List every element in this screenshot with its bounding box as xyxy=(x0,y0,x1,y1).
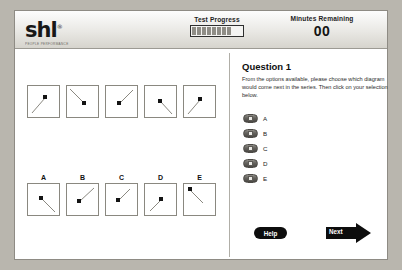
option-row-c[interactable]: C xyxy=(243,141,267,155)
arrow-down-right-icon xyxy=(28,184,59,215)
question-title: Question 1 xyxy=(242,61,291,72)
series-item xyxy=(66,85,99,118)
minutes-remaining-block: Minutes Remaining 00 xyxy=(267,15,377,39)
next-button[interactable]: Next xyxy=(326,223,378,243)
app-header: shl® PEOPLE PERFORMANCE Test Progress Mi… xyxy=(15,11,387,49)
toggle-knob-icon xyxy=(248,176,253,181)
answer-box-c[interactable] xyxy=(105,183,138,216)
arrow-up-right-icon xyxy=(28,86,59,117)
series-item xyxy=(105,85,138,118)
answer-item-d[interactable]: D xyxy=(144,173,177,216)
option-toggle-a[interactable] xyxy=(243,114,258,123)
arrow-up-left-icon xyxy=(184,184,215,215)
arrow-down-left-icon xyxy=(106,86,137,117)
answer-box-e[interactable] xyxy=(183,183,216,216)
test-window: shl® PEOPLE PERFORMANCE Test Progress Mi… xyxy=(14,10,388,260)
answer-item-a[interactable]: A xyxy=(27,173,60,216)
option-toggle-c[interactable] xyxy=(243,144,258,153)
option-label-e: E xyxy=(263,175,267,182)
answer-box-a[interactable] xyxy=(27,183,60,216)
question-instructions: From the options available, please choos… xyxy=(242,75,390,100)
series-item xyxy=(183,85,216,118)
series-box-2 xyxy=(66,85,99,118)
diagram-pane: A B xyxy=(15,49,229,259)
logo-tagline: PEOPLE PERFORMANCE xyxy=(25,42,105,47)
answer-box-b[interactable] xyxy=(66,183,99,216)
content-area: A B xyxy=(15,49,387,259)
progress-segment xyxy=(207,27,211,35)
progress-segment xyxy=(227,27,231,35)
toggle-knob-icon xyxy=(248,146,253,151)
series-box-3 xyxy=(105,85,138,118)
answer-box-d[interactable] xyxy=(144,183,177,216)
answer-label-e: E xyxy=(183,173,216,183)
question-pane: Question 1 From the options available, p… xyxy=(230,49,387,259)
next-button-label: Next xyxy=(329,228,343,235)
option-label-a: A xyxy=(263,115,267,122)
progress-segment xyxy=(202,27,206,35)
answer-item-c[interactable]: C xyxy=(105,173,138,216)
arrow-down-right-icon xyxy=(67,86,98,117)
shl-logo: shl® PEOPLE PERFORMANCE xyxy=(25,16,105,46)
registered-trademark-icon: ® xyxy=(57,23,62,30)
series-item xyxy=(27,85,60,118)
option-row-e[interactable]: E xyxy=(243,171,267,185)
minutes-remaining-label: Minutes Remaining xyxy=(267,15,377,22)
option-label-d: D xyxy=(263,160,267,167)
arrow-up-left-icon xyxy=(145,86,176,117)
logo-wordmark: shl® xyxy=(25,16,105,41)
arrow-down-left-icon xyxy=(106,184,137,215)
progress-segment xyxy=(217,27,221,35)
arrow-down-left-icon xyxy=(67,184,98,215)
arrow-up-right-icon xyxy=(184,86,215,117)
progress-segment xyxy=(197,27,201,35)
test-progress-label: Test Progress xyxy=(163,16,271,23)
option-toggle-d[interactable] xyxy=(243,159,258,168)
option-row-d[interactable]: D xyxy=(243,156,267,170)
logo-word-text: shl xyxy=(25,18,57,42)
test-progress-bar xyxy=(190,25,244,37)
series-row xyxy=(27,85,216,118)
minutes-remaining-value: 00 xyxy=(267,23,377,39)
answer-label-a: A xyxy=(27,173,60,183)
progress-segment xyxy=(192,27,196,35)
test-progress-block: Test Progress xyxy=(163,16,271,37)
progress-segment xyxy=(212,27,216,35)
option-toggle-e[interactable] xyxy=(243,174,258,183)
option-list: A B C D xyxy=(243,111,267,186)
answer-label-d: D xyxy=(144,173,177,183)
answer-label-c: C xyxy=(105,173,138,183)
option-label-c: C xyxy=(263,145,267,152)
answer-item-b[interactable]: B xyxy=(66,173,99,216)
series-box-5 xyxy=(183,85,216,118)
answer-row: A B xyxy=(27,173,216,216)
help-button[interactable]: Help xyxy=(254,227,287,239)
series-item xyxy=(144,85,177,118)
answer-label-b: B xyxy=(66,173,99,183)
toggle-knob-icon xyxy=(248,131,253,136)
series-box-4 xyxy=(144,85,177,118)
toggle-knob-icon xyxy=(248,161,253,166)
toggle-knob-icon xyxy=(248,116,253,121)
arrow-up-left-icon xyxy=(145,184,176,215)
answer-item-e[interactable]: E xyxy=(183,173,216,216)
option-row-a[interactable]: A xyxy=(243,111,267,125)
option-label-b: B xyxy=(263,130,267,137)
series-box-1 xyxy=(27,85,60,118)
progress-segment xyxy=(222,27,226,35)
option-toggle-b[interactable] xyxy=(243,129,258,138)
option-row-b[interactable]: B xyxy=(243,126,267,140)
